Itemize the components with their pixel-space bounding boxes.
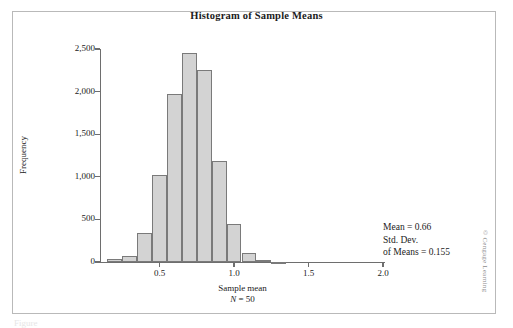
annotation-stddev-label: Std. Dev.: [383, 234, 450, 247]
figure-caption-stub: Figure: [14, 318, 38, 328]
annotation-mean: Mean = 0.66: [383, 221, 450, 234]
histogram-bar: [197, 70, 212, 262]
histogram-bar: [107, 259, 122, 262]
statistics-annotation: Mean = 0.66 Std. Dev. of Means = 0.155: [383, 221, 450, 259]
histogram-bar: [212, 161, 227, 262]
histogram-bar: [227, 224, 242, 262]
histogram-bar: [137, 233, 152, 262]
histogram-bar: [167, 94, 182, 262]
annotation-stddev-value: of Means = 0.155: [383, 246, 450, 259]
histogram-bar: [256, 260, 271, 262]
histogram-bar: [122, 256, 137, 262]
histogram-bar: [152, 175, 167, 262]
histogram-bar: [271, 262, 286, 264]
copyright-credit: © Cengage Learning: [481, 230, 489, 292]
histogram-bar: [182, 53, 197, 262]
histogram-bar: [242, 253, 257, 262]
